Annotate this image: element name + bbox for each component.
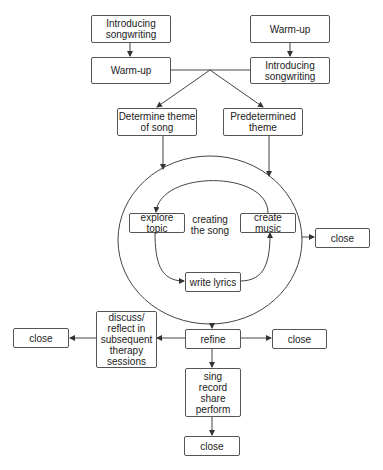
node-determine-theme: Determine theme of song [117, 108, 197, 136]
cycle-label: creating the song [188, 214, 232, 236]
node-close-cycle: close [315, 228, 370, 248]
node-label: discuss/ reflect in subsequent therapy s… [97, 312, 156, 367]
node-label: Determine theme of song [118, 111, 196, 133]
node-label: refine [200, 334, 225, 345]
node-label: Introducing songwriting [251, 60, 329, 82]
node-create-music: create music [240, 213, 296, 233]
node-label: close [200, 441, 223, 452]
node-label: close [331, 233, 354, 244]
node-explore-topic: explore topic [129, 213, 185, 233]
node-close-right: close [272, 329, 327, 349]
node-warm-up-right: Warm-up [250, 15, 330, 43]
node-introducing-songwriting-left: Introducing songwriting [91, 15, 171, 43]
creating-the-song-cycle [118, 156, 302, 324]
node-label: sing record share perform [193, 371, 233, 415]
node-warm-up-left: Warm-up [91, 57, 171, 84]
node-introducing-songwriting-right: Introducing songwriting [250, 57, 330, 84]
node-label: Warm-up [111, 65, 152, 76]
node-close-left: close [13, 328, 69, 348]
node-predetermined-theme: Predetermined theme [223, 108, 303, 136]
node-label: close [288, 334, 311, 345]
node-label: Introducing songwriting [92, 18, 170, 40]
node-label: write lyrics [190, 277, 237, 288]
node-label: Warm-up [270, 24, 311, 35]
node-label: Predetermined theme [224, 111, 302, 133]
node-write-lyrics: write lyrics [185, 272, 241, 292]
node-label: explore topic [130, 212, 184, 234]
node-refine: refine [185, 329, 241, 349]
node-label: close [29, 333, 52, 344]
node-close-bottom: close [184, 436, 240, 456]
node-label: create music [241, 212, 295, 234]
node-sing-record-share-perform: sing record share perform [185, 368, 241, 417]
node-discuss-reflect: discuss/ reflect in subsequent therapy s… [96, 311, 157, 368]
